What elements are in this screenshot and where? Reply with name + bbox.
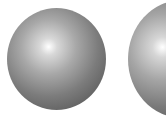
right-sphere <box>128 0 166 118</box>
left-sphere <box>7 8 106 110</box>
